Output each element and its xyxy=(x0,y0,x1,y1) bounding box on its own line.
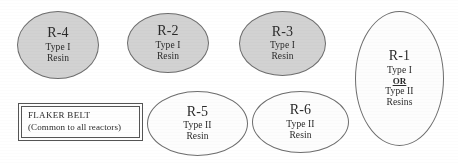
reactor-detail-line: Type I xyxy=(46,42,71,53)
reactor-node-r2: R-2 Type I Resin xyxy=(127,13,209,73)
reactor-title: R-1 xyxy=(389,49,411,64)
reactor-detail-line: Type II xyxy=(183,120,211,131)
reactor-diagram: R-4 Type I Resin R-2 Type I Resin R-3 Ty… xyxy=(0,0,458,163)
reactor-detail-line: Type II xyxy=(385,86,413,97)
reactor-title: R-3 xyxy=(272,25,294,40)
reactor-detail-or: OR xyxy=(393,76,407,86)
reactor-detail-line: Type I xyxy=(156,40,181,51)
reactor-node-r3: R-3 Type I Resin xyxy=(239,11,326,76)
reactor-title: R-4 xyxy=(47,26,69,41)
reactor-detail-line: Resins xyxy=(387,97,413,108)
reactor-title: R-5 xyxy=(187,105,209,120)
flaker-belt-box: FLAKER BELT (Common to all reactors) xyxy=(18,103,143,141)
reactor-node-r5: R-5 Type II Resin xyxy=(147,91,248,156)
reactor-detail-line: Resin xyxy=(289,130,311,141)
reactor-detail-line: Type II xyxy=(286,119,314,130)
flaker-belt-inner: FLAKER BELT (Common to all reactors) xyxy=(21,106,140,138)
reactor-node-r6: R-6 Type II Resin xyxy=(252,91,349,153)
reactor-detail-line: Type I xyxy=(387,65,412,76)
reactor-detail-line: Resin xyxy=(271,51,293,62)
reactor-detail-line: Resin xyxy=(157,51,179,62)
reactor-node-r4: R-4 Type I Resin xyxy=(17,11,99,79)
reactor-title: R-6 xyxy=(290,103,312,118)
reactor-detail-line: Resin xyxy=(47,53,69,64)
reactor-detail-line: Resin xyxy=(186,131,208,142)
flaker-belt-subtitle: (Common to all reactors) xyxy=(28,122,121,134)
reactor-title: R-2 xyxy=(157,24,179,39)
flaker-belt-title: FLAKER BELT xyxy=(28,110,90,122)
reactor-detail-line: Type I xyxy=(270,40,295,51)
reactor-node-r1: R-1 Type I OR Type II Resins xyxy=(355,11,444,146)
